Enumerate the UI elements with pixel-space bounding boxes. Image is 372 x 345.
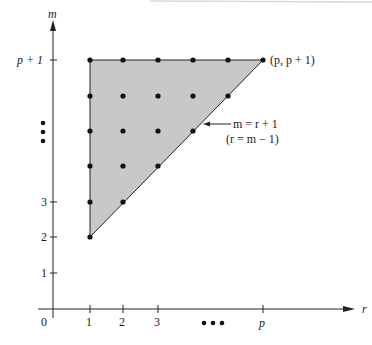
origin-label: 0	[41, 315, 47, 329]
y-tick-1: 1	[41, 266, 47, 280]
corner-point-label: (p, p + 1)	[270, 53, 315, 67]
x-axis-arrow-icon	[343, 306, 355, 312]
lattice-diagram: m r p + 1 3 2 1 0 1 2 3 p (p, p + 1	[0, 0, 372, 345]
x-tick-1: 1	[86, 315, 92, 329]
line-equation-alt-label: (r = m − 1)	[226, 132, 279, 146]
x-tick-2: 2	[119, 315, 125, 329]
x-axis-label: r	[362, 302, 367, 316]
top-edge-shadow	[150, 1, 372, 2]
y-tick-2: 2	[41, 230, 47, 244]
line-equation-label: m = r + 1	[233, 117, 278, 131]
y-axis-arrow-icon	[50, 20, 56, 31]
x-tick-p: p	[258, 316, 265, 330]
x-tick-3: 3	[154, 315, 160, 329]
shaded-region	[90, 60, 263, 237]
annotation-arrow-icon	[203, 122, 210, 127]
x-ellipsis-icon	[202, 321, 225, 326]
y-ellipsis-icon	[41, 121, 46, 144]
y-tick-3: 3	[41, 195, 47, 209]
y-tick-p-plus-1: p + 1	[16, 53, 43, 67]
y-axis-label: m	[48, 7, 57, 21]
